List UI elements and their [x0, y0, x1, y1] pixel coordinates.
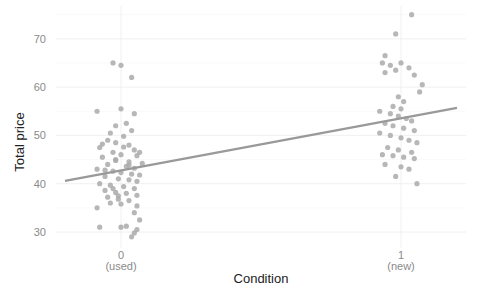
- data-point: [137, 172, 142, 177]
- data-point: [129, 171, 134, 176]
- data-point: [388, 133, 393, 138]
- y-tick-label: 60: [34, 81, 46, 93]
- data-point: [382, 162, 387, 167]
- data-point: [118, 106, 123, 111]
- y-axis-title: Total price: [12, 112, 27, 171]
- y-tick-label: 70: [34, 33, 46, 45]
- data-point: [129, 128, 134, 133]
- data-point: [116, 193, 121, 198]
- data-point: [414, 181, 419, 186]
- data-point: [113, 123, 118, 128]
- data-point: [406, 65, 411, 70]
- data-points: [94, 12, 424, 239]
- data-point: [388, 111, 393, 116]
- data-point: [94, 109, 99, 114]
- data-point: [420, 82, 425, 87]
- data-point: [110, 60, 115, 65]
- data-point: [380, 60, 385, 65]
- y-tick-label: 30: [34, 226, 46, 238]
- data-point: [97, 181, 102, 186]
- data-point: [406, 138, 411, 143]
- regression-line: [65, 108, 457, 181]
- data-point: [390, 123, 395, 128]
- data-point: [132, 210, 137, 215]
- data-point: [108, 200, 113, 205]
- data-point: [134, 179, 139, 184]
- data-point: [377, 109, 382, 114]
- data-point: [390, 153, 395, 158]
- data-point: [414, 140, 419, 145]
- data-point: [409, 12, 414, 17]
- data-point: [385, 145, 390, 150]
- y-axis-ticks: 3040506070: [34, 33, 46, 238]
- data-point: [393, 31, 398, 36]
- data-point: [105, 162, 110, 167]
- data-point: [134, 203, 139, 208]
- data-point: [132, 111, 137, 116]
- data-point: [121, 134, 126, 139]
- data-point: [388, 63, 393, 68]
- data-point: [412, 72, 417, 77]
- data-point: [401, 155, 406, 160]
- data-point: [396, 94, 401, 99]
- data-point: [129, 75, 134, 80]
- data-point: [124, 224, 129, 229]
- data-point: [134, 193, 139, 198]
- x-axis-title: Condition: [234, 271, 289, 286]
- data-point: [121, 144, 126, 149]
- data-point: [393, 174, 398, 179]
- data-point: [118, 152, 123, 157]
- data-point: [124, 121, 129, 126]
- data-point: [380, 152, 385, 157]
- x-axis-ticks: 0(used)1(new): [105, 249, 414, 272]
- data-point: [124, 191, 129, 196]
- data-point: [126, 163, 131, 168]
- x-tick-sublabel: (new): [387, 260, 415, 272]
- data-point: [398, 60, 403, 65]
- data-point: [94, 205, 99, 210]
- data-point: [113, 140, 118, 145]
- data-point: [393, 68, 398, 73]
- data-point: [132, 147, 137, 152]
- x-tick-sublabel: (used): [105, 260, 136, 272]
- data-point: [126, 198, 131, 203]
- data-point: [417, 89, 422, 94]
- data-point: [118, 63, 123, 68]
- data-point: [126, 142, 131, 147]
- data-point: [110, 150, 115, 155]
- data-point: [100, 155, 105, 160]
- data-point: [129, 234, 134, 239]
- data-point: [113, 158, 118, 163]
- data-point: [108, 130, 113, 135]
- data-point: [118, 225, 123, 230]
- data-point: [396, 147, 401, 152]
- data-point: [132, 186, 137, 191]
- data-point: [409, 118, 414, 123]
- data-point: [121, 184, 126, 189]
- data-point: [412, 156, 417, 161]
- y-tick-label: 50: [34, 129, 46, 141]
- data-point: [398, 135, 403, 140]
- data-point: [377, 130, 382, 135]
- data-point: [409, 150, 414, 155]
- data-point: [118, 201, 123, 206]
- data-point: [105, 195, 110, 200]
- data-point: [94, 167, 99, 172]
- y-tick-label: 40: [34, 178, 46, 190]
- data-point: [401, 126, 406, 131]
- data-point: [401, 99, 406, 104]
- data-point: [390, 104, 395, 109]
- data-point: [398, 164, 403, 169]
- data-point: [137, 150, 142, 155]
- data-point: [100, 141, 105, 146]
- data-point: [97, 225, 102, 230]
- data-point: [116, 176, 121, 181]
- data-point: [126, 177, 131, 182]
- scatter-chart: 3040506070 0(used)1(new) Total price Con…: [0, 0, 481, 299]
- data-point: [110, 186, 115, 191]
- data-point: [102, 188, 107, 193]
- data-point: [105, 138, 110, 143]
- data-point: [382, 53, 387, 58]
- data-point: [398, 106, 403, 111]
- data-point: [137, 217, 142, 222]
